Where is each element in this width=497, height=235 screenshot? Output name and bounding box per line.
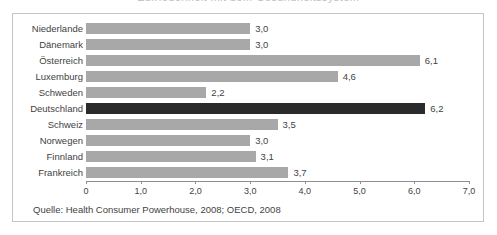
bar-row: Österreich6,1 xyxy=(13,53,485,69)
bar-value-label: 4,6 xyxy=(343,69,356,85)
bar-value-label: 3,0 xyxy=(255,133,268,149)
x-axis-tick-mark xyxy=(414,181,415,184)
x-axis-tick-label: 7,0 xyxy=(463,186,476,196)
bar xyxy=(86,55,420,66)
x-axis-tick-label: 5,0 xyxy=(353,186,366,196)
bar-row: Norwegen3,0 xyxy=(13,133,485,149)
bar-value-label: 6,2 xyxy=(430,101,443,117)
bar-row: Dänemark3,0 xyxy=(13,37,485,53)
bar xyxy=(86,71,338,82)
bar-track: 3,5 xyxy=(86,117,485,133)
bar-row: Finnland3,1 xyxy=(13,149,485,165)
x-axis: 01,02,03,04,05,06,07,0 xyxy=(86,181,469,205)
bar-value-label: 3,1 xyxy=(261,149,274,165)
bar-category-label: Schweden xyxy=(13,85,83,101)
bar-track: 3,0 xyxy=(86,37,485,53)
x-axis-tick-label: 1,0 xyxy=(134,186,147,196)
bar-category-label: Frankreich xyxy=(13,165,83,181)
bar-row: Niederlande3,0 xyxy=(13,21,485,37)
x-axis-tick-mark xyxy=(86,181,87,184)
bar xyxy=(86,103,425,114)
x-axis-tick-label: 6,0 xyxy=(408,186,421,196)
bar-row: Schweiz3,5 xyxy=(13,117,485,133)
bar-track: 6,2 xyxy=(86,101,485,117)
bar-value-label: 2,2 xyxy=(211,85,224,101)
bar-value-label: 3,0 xyxy=(255,21,268,37)
bar xyxy=(86,39,250,50)
x-axis-line xyxy=(86,181,469,182)
bar-category-label: Luxemburg xyxy=(13,69,83,85)
bar xyxy=(86,119,278,130)
bar-row: Luxemburg4,6 xyxy=(13,69,485,85)
bar-value-label: 3,5 xyxy=(283,117,296,133)
bar-category-label: Niederlande xyxy=(13,21,83,37)
x-axis-tick-label: 3,0 xyxy=(244,186,257,196)
source-note: Quelle: Health Consumer Powerhouse, 2008… xyxy=(33,204,281,215)
bar xyxy=(86,135,250,146)
x-axis-tick-label: 4,0 xyxy=(299,186,312,196)
x-axis-tick-mark xyxy=(305,181,306,184)
bar xyxy=(86,151,256,162)
bar-value-label: 3,7 xyxy=(293,165,306,181)
bar-track: 2,2 xyxy=(86,85,485,101)
chart-frame: Niederlande3,0Dänemark3,0Österreich6,1Lu… xyxy=(12,13,484,222)
bar-category-label: Österreich xyxy=(13,53,83,69)
plot-area: Niederlande3,0Dänemark3,0Österreich6,1Lu… xyxy=(13,21,485,181)
bar-track: 3,0 xyxy=(86,21,485,37)
bar-row: Deutschland6,2 xyxy=(13,101,485,117)
bar-row: Schweden2,2 xyxy=(13,85,485,101)
bar-track: 3,7 xyxy=(86,165,485,181)
x-axis-tick-mark xyxy=(195,181,196,184)
x-axis-tick-mark xyxy=(469,181,470,184)
x-axis-tick-label: 2,0 xyxy=(189,186,202,196)
chart-title: Zufriedenheit mit dem Gesundheitssystem xyxy=(0,0,497,5)
bar-row: Frankreich3,7 xyxy=(13,165,485,181)
bar-track: 3,0 xyxy=(86,133,485,149)
bar xyxy=(86,23,250,34)
x-axis-tick-label: 0 xyxy=(83,186,88,196)
bar-category-label: Norwegen xyxy=(13,133,83,149)
bar xyxy=(86,167,288,178)
bar-value-label: 6,1 xyxy=(425,53,438,69)
bar xyxy=(86,87,206,98)
bar-category-label: Dänemark xyxy=(13,37,83,53)
bar-category-label: Schweiz xyxy=(13,117,83,133)
x-axis-tick-mark xyxy=(360,181,361,184)
x-axis-tick-mark xyxy=(250,181,251,184)
bar-track: 6,1 xyxy=(86,53,485,69)
bar-category-label: Finnland xyxy=(13,149,83,165)
bar-track: 3,1 xyxy=(86,149,485,165)
x-axis-tick-mark xyxy=(141,181,142,184)
bar-track: 4,6 xyxy=(86,69,485,85)
bar-category-label: Deutschland xyxy=(13,101,83,117)
bar-value-label: 3,0 xyxy=(255,37,268,53)
